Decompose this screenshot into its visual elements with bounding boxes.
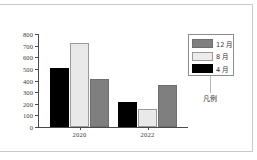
y-axis-tick-mark: [35, 57, 38, 58]
y-axis-tick-mark: [35, 115, 38, 116]
y-axis-tick-label: 400: [23, 77, 33, 84]
legend-swatch-icon: [192, 52, 213, 61]
chart-screenshot: 8007006005004003002001000 20202022 12 月 …: [0, 0, 257, 160]
y-axis-tick-label: 300: [23, 89, 33, 96]
legend-box: 12 月 8 月 4 月: [188, 34, 234, 76]
legend-leader-line: [210, 76, 211, 93]
bar: [138, 109, 157, 127]
y-axis-tick-label: 700: [23, 42, 33, 49]
bar: [70, 43, 89, 127]
bar-series-layer: [39, 34, 183, 127]
y-axis-tick-label: 0: [30, 124, 33, 131]
x-axis-tick-label: 2022: [141, 131, 155, 138]
legend-caption: 凡例: [203, 93, 217, 103]
y-axis-tick-mark: [35, 127, 38, 128]
y-axis-tick-label: 100: [23, 112, 33, 119]
legend-item-2: 4 月: [192, 63, 230, 74]
y-axis-tick-label: 500: [23, 65, 33, 72]
x-axis-tick-label: 2020: [73, 131, 87, 138]
legend-item-label: 12 月: [216, 39, 233, 49]
bar: [118, 102, 137, 127]
legend-swatch-icon: [192, 64, 213, 73]
y-axis-tick-mark: [35, 92, 38, 93]
y-axis-tick-label: 800: [23, 31, 33, 38]
y-axis-tick-mark: [35, 81, 38, 82]
y-axis-tick-mark: [35, 104, 38, 105]
bar: [158, 85, 177, 127]
bar: [90, 79, 109, 127]
y-axis-tick-mark: [35, 69, 38, 70]
legend-swatch-icon: [192, 39, 213, 48]
x-axis-line: [38, 127, 188, 128]
plot-area: 8007006005004003002001000 20202022: [38, 34, 183, 127]
legend-item-1: 8 月: [192, 51, 230, 62]
y-axis-tick-label: 600: [23, 54, 33, 61]
legend-item-label: 4 月: [216, 64, 229, 74]
bar: [50, 68, 69, 127]
legend-item-0: 12 月: [192, 38, 230, 49]
y-axis-tick-mark: [35, 34, 38, 35]
y-axis-tick-mark: [35, 46, 38, 47]
x-axis-tick-mark: [80, 127, 81, 130]
legend-item-label: 8 月: [216, 51, 229, 61]
x-axis-tick-mark: [148, 127, 149, 130]
y-axis-tick-label: 200: [23, 100, 33, 107]
